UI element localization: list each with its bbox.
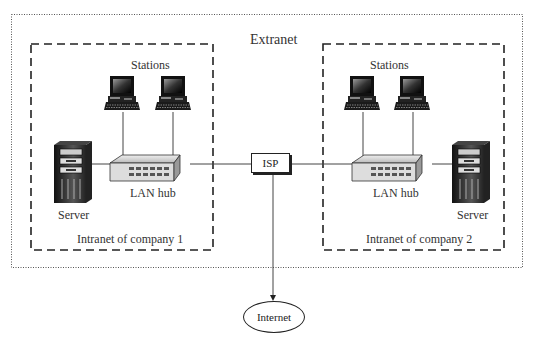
server-label-1: Server	[58, 208, 89, 223]
isp-node: ISP	[251, 153, 290, 173]
intranet-1-label: Intranet of company 1	[77, 232, 183, 247]
stations-label-2: Stations	[370, 58, 409, 73]
workstation-icon	[104, 76, 140, 110]
internet-node: Internet	[243, 301, 305, 333]
internet-label: Internet	[257, 311, 291, 323]
isp-label: ISP	[263, 157, 279, 169]
server-icon	[54, 141, 92, 203]
stations-label-1: Stations	[131, 58, 170, 73]
lan-hub-label-2: LAN hub	[373, 186, 419, 201]
lan-hub-label-1: LAN hub	[130, 186, 176, 201]
extranet-boundary	[12, 15, 264, 96]
server-icon	[452, 141, 490, 203]
workstation-icon	[155, 76, 191, 110]
extranet-label: Extranet	[250, 32, 297, 48]
extranet-box	[12, 15, 523, 96]
diagram-canvas	[0, 0, 548, 346]
lan-hub-icon	[352, 155, 422, 181]
intranet-2-label: Intranet of company 2	[366, 232, 472, 247]
workstation-icon	[344, 76, 380, 110]
server-label-2: Server	[457, 208, 488, 223]
workstation-icon	[394, 76, 430, 110]
lan-hub-icon	[110, 155, 180, 181]
